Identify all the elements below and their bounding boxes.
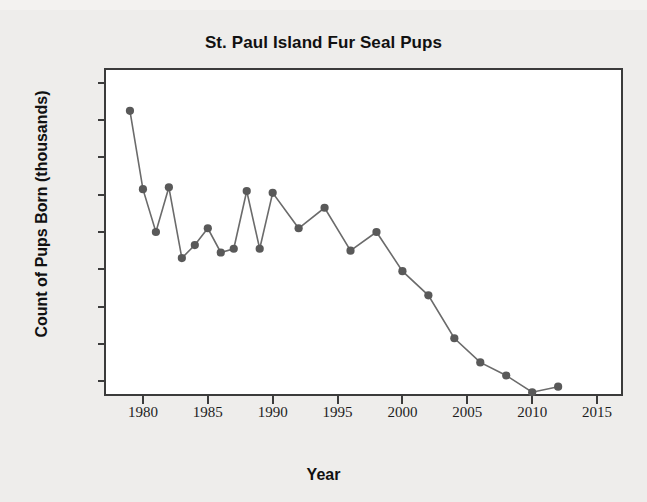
x-tick-mark [337,396,339,404]
x-tick-label: 1985 [178,404,238,421]
x-tick-mark [531,396,533,404]
y-tick-mark [98,231,106,233]
chart-title: St. Paul Island Fur Seal Pups [0,33,647,53]
x-tick-label: 2015 [567,404,627,421]
x-axis-label: Year [0,466,647,484]
x-tick-label: 2010 [502,404,562,421]
y-tick-mark [98,268,106,270]
x-tick-label: 1990 [243,404,303,421]
x-tick-label: 2000 [372,404,432,421]
figure-canvas: St. Paul Island Fur Seal Pups Count of P… [0,0,647,502]
y-tick-mark [98,343,106,345]
y-tick-mark [98,156,106,158]
x-tick-label: 1980 [113,404,173,421]
y-tick-mark [98,306,106,308]
x-tick-mark [272,396,274,404]
x-tick-mark [596,396,598,404]
y-tick-mark [98,119,106,121]
x-tick-mark [401,396,403,404]
x-tick-label: 2005 [437,404,497,421]
y-tick-mark [98,380,106,382]
x-tick-mark [142,396,144,404]
plot-area [104,68,623,396]
x-tick-mark [207,396,209,404]
y-tick-mark [98,194,106,196]
y-axis-label: Count of Pups Born (thousands) [33,54,51,374]
x-tick-mark [466,396,468,404]
x-tick-label: 1995 [308,404,368,421]
y-tick-mark [98,82,106,84]
